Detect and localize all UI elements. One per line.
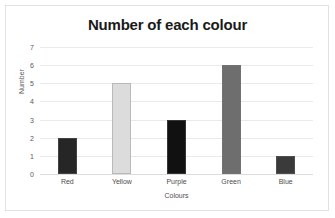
x-axis-tick-label-blue: Blue bbox=[256, 178, 316, 185]
x-axis-tick-label-purple: Purple bbox=[147, 178, 207, 185]
y-axis-tick-label: 3 bbox=[4, 116, 34, 123]
y-axis-tick-label: 5 bbox=[4, 80, 34, 87]
y-axis-tick-label: 1 bbox=[4, 152, 34, 159]
y-axis-tick-label: 7 bbox=[4, 44, 34, 51]
gridline bbox=[40, 65, 313, 66]
gridline bbox=[40, 83, 313, 84]
gridline bbox=[40, 47, 313, 48]
x-axis-tick-label-green: Green bbox=[201, 178, 261, 185]
y-axis-tick-label: 6 bbox=[4, 62, 34, 69]
y-axis-tick-label: 0 bbox=[4, 171, 34, 178]
gridline bbox=[40, 174, 313, 175]
bar-blue bbox=[276, 156, 295, 174]
y-axis-tick-label: 4 bbox=[4, 98, 34, 105]
bar-yellow bbox=[112, 83, 131, 174]
x-axis-tick-label-yellow: Yellow bbox=[92, 178, 152, 185]
bar-red bbox=[58, 138, 77, 174]
chart-title: Number of each colour bbox=[0, 16, 335, 33]
bar-green bbox=[222, 65, 241, 174]
bar-purple bbox=[167, 120, 186, 174]
gridline bbox=[40, 101, 313, 102]
x-axis-title: Colours bbox=[40, 192, 313, 199]
y-axis-tick-label: 2 bbox=[4, 134, 34, 141]
x-axis-tick-label-red: Red bbox=[37, 178, 97, 185]
chart-card: Number of each colour Number 01234567 Re… bbox=[0, 0, 335, 218]
plot-area bbox=[40, 47, 313, 174]
